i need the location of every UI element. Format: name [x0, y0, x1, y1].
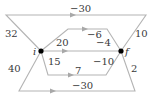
- arrow-right-icon: [62, 49, 68, 54]
- arrow-right-icon: [50, 89, 56, 94]
- top-outer-path-weight: −30: [70, 3, 91, 14]
- bottom-outer-path-weight: −30: [72, 80, 93, 91]
- node-i: [38, 48, 43, 53]
- lower-hexagon-path-weight: 7: [75, 65, 81, 76]
- label-40: 40: [8, 63, 21, 74]
- label-20: 20: [56, 37, 69, 48]
- label-2: 2: [131, 63, 137, 74]
- label-15: 15: [48, 56, 61, 67]
- label-minus-10: −10: [93, 56, 114, 67]
- node-label-f: f: [124, 46, 131, 57]
- node-f: [118, 48, 123, 53]
- arrow-right-icon: [68, 73, 74, 78]
- label-minus-4: −4: [96, 37, 111, 48]
- label-10: 10: [135, 28, 148, 39]
- node-label-i: i: [33, 46, 36, 57]
- path-diagram: −30−67−30321020−415−10240 if: [0, 0, 152, 102]
- label-32: 32: [5, 28, 18, 39]
